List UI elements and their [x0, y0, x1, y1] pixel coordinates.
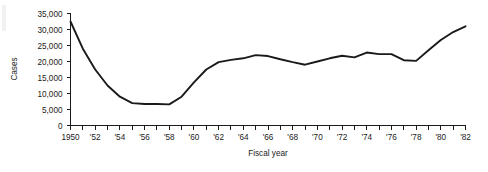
x-axis: 1950'52'54'56'58'60'62'64'66'68'70'72'74…: [61, 126, 471, 159]
line-chart: 05,00010,00015,00020,00025,00030,00035,0…: [0, 0, 488, 172]
y-tick-label: 25,000: [37, 42, 62, 51]
chart-container: 05,00010,00015,00020,00025,00030,00035,0…: [0, 0, 488, 172]
x-tick-label: '82: [460, 133, 471, 142]
y-tick-label: 15,000: [37, 74, 62, 83]
y-tick-label: 5,000: [42, 106, 63, 115]
x-tick-label: 1950: [61, 133, 80, 142]
y-axis: 05,00010,00015,00020,00025,00030,00035,0…: [10, 10, 71, 131]
x-tick-label: '64: [238, 133, 249, 142]
y-axis-title: Cases: [10, 57, 19, 80]
x-axis-ticks: [71, 126, 466, 130]
x-axis-title: Fiscal year: [248, 149, 288, 158]
x-tick-label: '54: [115, 133, 126, 142]
x-tick-label: '80: [435, 133, 446, 142]
y-tick-label: 35,000: [37, 10, 62, 19]
x-tick-label: '66: [263, 133, 274, 142]
y-axis-ticks: [67, 14, 71, 126]
x-tick-label: '68: [287, 133, 298, 142]
data-series-line: [71, 22, 466, 105]
x-tick-label: '60: [189, 133, 200, 142]
x-axis-tick-labels: 1950'52'54'56'58'60'62'64'66'68'70'72'74…: [61, 133, 471, 142]
x-tick-label: '70: [312, 133, 323, 142]
y-axis-tick-labels: 05,00010,00015,00020,00025,00030,00035,0…: [37, 10, 62, 131]
y-tick-label: 0: [58, 122, 63, 131]
y-tick-label: 30,000: [37, 26, 62, 35]
y-tick-label: 20,000: [37, 58, 62, 67]
x-tick-label: '62: [213, 133, 224, 142]
x-tick-label: '78: [411, 133, 422, 142]
x-tick-label: '76: [386, 133, 397, 142]
x-tick-label: '72: [337, 133, 348, 142]
x-tick-label: '56: [139, 133, 150, 142]
x-tick-label: '58: [164, 133, 175, 142]
x-tick-label: '52: [90, 133, 101, 142]
y-tick-label: 10,000: [37, 90, 62, 99]
x-tick-label: '74: [361, 133, 372, 142]
